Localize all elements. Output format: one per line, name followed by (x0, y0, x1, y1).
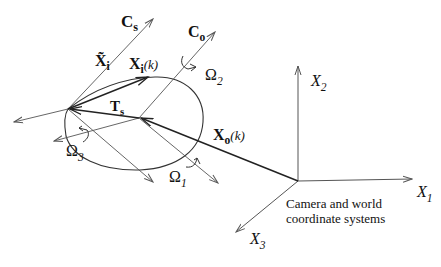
label-x2-sub: 2 (321, 81, 327, 93)
label-co-main: C (188, 23, 200, 40)
diagram-canvas: Cs Co X̃i Xi(k) Ts Xo(k) Ω2 Ω3 Ω1 X2 X1 … (0, 0, 441, 267)
label-xi-k-main: X (129, 55, 141, 72)
label-co-sub: o (200, 31, 206, 43)
cs-axis-left (14, 109, 68, 122)
label-xi-tilde: X̃i (95, 53, 110, 69)
label-xo-k: Xo(k) (213, 127, 245, 143)
label-omega1-sub: 1 (181, 177, 187, 189)
co-axis-up (139, 32, 215, 118)
label-omega3: Ω3 (66, 143, 84, 159)
caption-line-1: Camera and world (286, 196, 385, 211)
label-xo-k-main: X (213, 126, 225, 143)
label-x3-main: X (250, 230, 260, 247)
label-omega1-main: Ω (169, 168, 181, 185)
label-cs: Cs (121, 13, 138, 30)
label-x3-sub: 3 (260, 239, 266, 251)
vector-ts (70, 109, 139, 118)
label-ts-main: T (110, 98, 120, 114)
label-xi-k: Xi(k) (129, 56, 158, 72)
caption: Camera and world coordinate systems (286, 196, 385, 226)
label-xi-k-sub: i (141, 63, 144, 75)
label-omega3-main: Ω (66, 142, 78, 159)
label-omega2-main: Ω (205, 66, 217, 83)
label-co: Co (188, 24, 205, 40)
label-xo-k-sub: o (225, 134, 231, 146)
rotation-omega2-icon (182, 56, 196, 71)
label-omega1: Ω1 (169, 169, 187, 185)
axis-x1 (298, 179, 412, 181)
label-x2-main: X (311, 72, 321, 89)
label-x1: X1 (417, 184, 433, 200)
co-axis-left (54, 118, 139, 141)
label-cs-sub: s (133, 20, 138, 34)
label-x1-main: X (417, 183, 427, 200)
label-xi-tilde-main: X̃ (95, 52, 107, 69)
label-xo-k-arg: (k) (230, 128, 244, 143)
label-xi-tilde-sub: i (107, 60, 110, 72)
label-xi-k-arg: (k) (144, 57, 158, 72)
label-x2: X2 (311, 73, 327, 89)
label-omega2: Ω2 (205, 67, 223, 83)
label-ts-sub: s (120, 105, 124, 117)
label-omega2-sub: 2 (217, 75, 223, 87)
caption-line-2: coordinate systems (286, 211, 385, 226)
vector-xi-k (68, 77, 148, 109)
label-x3: X3 (250, 231, 266, 247)
label-x1-sub: 1 (427, 192, 433, 204)
label-omega3-sub: 3 (78, 151, 84, 163)
label-cs-main: C (121, 12, 133, 31)
label-ts: Ts (110, 99, 124, 114)
